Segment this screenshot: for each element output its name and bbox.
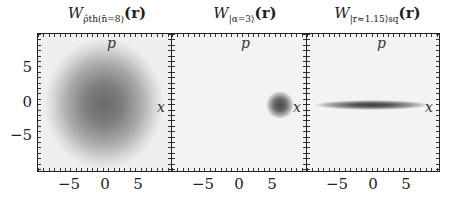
panel2-title: W|α=3⟩(r) — [200, 4, 290, 24]
panel-coherent: p x — [171, 33, 307, 172]
xtick-label: 0 — [227, 175, 251, 193]
title-main: W — [68, 4, 83, 22]
ytick-label: 0 — [0, 93, 32, 111]
title-main: W — [213, 4, 228, 22]
p-axis-label: p — [107, 35, 116, 51]
title-arg: (r) — [124, 4, 146, 22]
xtick-label: −5 — [325, 175, 349, 193]
title-sub: |α=3⟩ — [229, 14, 255, 24]
panel1-title: Wρ̂th(n̄=8)(r) — [52, 4, 162, 24]
p-axis-label: p — [377, 35, 386, 51]
panel-squeezed: p x — [306, 33, 440, 172]
xtick-label: 5 — [126, 175, 150, 193]
xtick-label: 5 — [394, 175, 418, 193]
ytick-label: −5 — [0, 126, 32, 144]
panel3-title: W|r≈1.15⟩sq(r) — [320, 4, 435, 24]
x-axis-label: x — [293, 99, 301, 115]
panel-thermal: p x — [37, 33, 172, 172]
xtick-label: 0 — [361, 175, 385, 193]
xtick-label: −5 — [191, 175, 215, 193]
title-sub: |r≈1.15⟩sq — [350, 14, 399, 24]
x-axis-label: x — [157, 99, 165, 115]
xtick-label: −5 — [57, 175, 81, 193]
p-axis-label: p — [241, 35, 250, 51]
xtick-label: 5 — [260, 175, 284, 193]
xtick-label: 0 — [93, 175, 117, 193]
title-sub: ρ̂th(n̄=8) — [83, 14, 124, 24]
ytick-label: 5 — [0, 58, 32, 76]
x-axis-label: x — [425, 99, 433, 115]
title-arg: (r) — [255, 4, 277, 22]
title-arg: (r) — [399, 4, 421, 22]
title-main: W — [334, 4, 349, 22]
